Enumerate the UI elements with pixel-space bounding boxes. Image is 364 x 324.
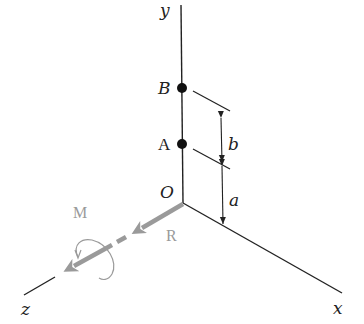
point-b-label: B	[157, 78, 171, 98]
extension-line-b	[193, 91, 230, 111]
y-axis-label: y	[159, 0, 170, 20]
dimension-a-label: a	[229, 190, 239, 210]
extension-line-a	[193, 149, 230, 169]
moment-vector-shaft-dash	[117, 237, 126, 242]
z-axis	[24, 277, 55, 295]
point-a	[177, 139, 187, 149]
dimension-b-label: b	[228, 134, 239, 154]
point-a-label: A	[158, 135, 171, 154]
moment-label: M	[73, 204, 87, 221]
resultant-label: R	[166, 227, 177, 244]
dimension-a-line	[222, 166, 223, 224]
point-b	[177, 83, 187, 93]
x-axis-label: x	[333, 298, 343, 318]
origin-label: O	[160, 182, 174, 202]
resultant-vector-r	[142, 204, 183, 228]
y-axis	[181, 5, 183, 203]
x-axis	[183, 203, 342, 293]
coordinate-diagram: y x z O B A b a R M	[0, 0, 364, 324]
dimension-b-line	[221, 118, 222, 162]
moment-curl-arrowhead	[75, 250, 81, 258]
z-axis-label: z	[20, 299, 31, 319]
